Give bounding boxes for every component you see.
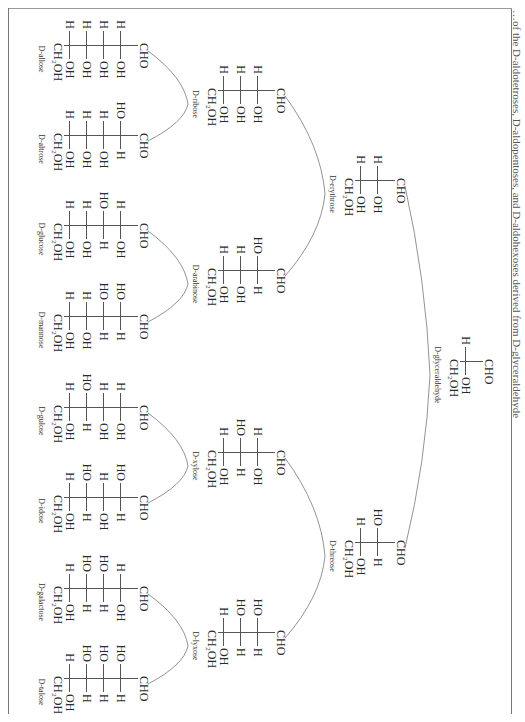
aldehyde-group: CHO: [275, 630, 287, 655]
left-substituent: H: [115, 20, 127, 29]
stereocenter-bond: [69, 31, 70, 59]
carbon-chain: [218, 90, 275, 91]
stereocenter-bond: [69, 393, 70, 421]
right-substituent: OH: [98, 423, 110, 440]
left-substituent: HO: [98, 555, 110, 572]
aldehyde-group: CHO: [483, 359, 495, 384]
sugar-name-label: D-altrose: [37, 134, 46, 164]
left-substituent: HO: [252, 599, 264, 616]
stereocenter-bond: [103, 302, 104, 330]
left-substituent: HO: [252, 237, 264, 254]
right-substituent: H: [115, 694, 127, 703]
left-substituent: HO: [235, 419, 247, 436]
stereocenter-bond: [465, 347, 466, 375]
stereocenter-bond: [360, 166, 361, 194]
left-substituent: H: [218, 245, 230, 254]
stereocenter-bond: [86, 121, 87, 149]
right-substituent: OH: [372, 196, 384, 213]
aldehyde-group: CHO: [138, 586, 150, 611]
carbon-chain: [64, 316, 138, 317]
right-substituent: H: [98, 241, 110, 250]
right-substituent: OH: [218, 286, 230, 303]
aldehyde-group: CHO: [138, 133, 150, 158]
carbon-chain: [64, 45, 138, 46]
right-substituent: OH: [98, 61, 110, 78]
stereocenter-bond: [120, 121, 121, 149]
stereocenter-bond: [86, 664, 87, 692]
stereocenter-bond: [120, 664, 121, 692]
right-substituent: OH: [64, 61, 76, 78]
tree-link: [148, 594, 188, 646]
aldehyde-group: CHO: [275, 268, 287, 293]
stereocenter-bond: [257, 438, 258, 466]
right-substituent: H: [235, 468, 247, 477]
right-substituent: OH: [81, 61, 93, 78]
right-substituent: OH: [218, 468, 230, 485]
hydroxymethyl-group: CH₂OH: [52, 133, 64, 171]
right-substituent: OH: [64, 151, 76, 168]
aldehyde-group: CHO: [275, 88, 287, 113]
stereocenter-bond: [86, 483, 87, 511]
left-substituent: H: [64, 110, 76, 119]
carbon-chain: [218, 270, 275, 271]
left-substituent: H: [235, 65, 247, 74]
sugar-name-label: D-idose: [37, 498, 46, 523]
left-substituent: H: [64, 20, 76, 29]
stereocenter-bond: [240, 438, 241, 466]
left-substituent: H: [64, 472, 76, 481]
tree-link: [148, 413, 188, 466]
carbon-chain: [218, 452, 275, 453]
left-substituent: H: [218, 427, 230, 436]
left-substituent: HO: [115, 645, 127, 662]
right-substituent: OH: [81, 241, 93, 258]
stereocenter-bond: [223, 438, 224, 466]
right-substituent: OH: [64, 694, 76, 711]
left-substituent: H: [64, 291, 76, 300]
left-substituent: HO: [115, 464, 127, 481]
right-substituent: H: [98, 694, 110, 703]
hydroxymethyl-group: CH₂OH: [343, 178, 355, 216]
sugar-name-label: D-glyceraldehyde: [433, 346, 442, 403]
tree-link: [405, 186, 430, 375]
left-substituent: H: [355, 517, 367, 526]
carbon-chain: [218, 632, 275, 633]
stereocenter-bond: [360, 528, 361, 556]
right-substituent: OH: [64, 513, 76, 530]
right-substituent: OH: [115, 423, 127, 440]
left-substituent: H: [64, 653, 76, 662]
stereocenter-bond: [120, 302, 121, 330]
aldehyde-group: CHO: [138, 43, 150, 68]
right-substituent: H: [81, 423, 93, 432]
left-substituent: HO: [372, 509, 384, 526]
carbon-chain: [460, 361, 483, 362]
left-substituent: HO: [235, 599, 247, 616]
right-substituent: OH: [355, 558, 367, 575]
left-substituent: HO: [115, 283, 127, 300]
left-substituent: HO: [81, 555, 93, 572]
left-substituent: H: [218, 65, 230, 74]
aldehyde-group: CHO: [395, 540, 407, 565]
stereocenter-bond: [103, 211, 104, 239]
stereocenter-bond: [120, 574, 121, 602]
aldehyde-group: CHO: [138, 495, 150, 520]
stereocenter-bond: [120, 393, 121, 421]
sugar-name-label: D-gulose: [37, 406, 46, 435]
left-substituent: H: [218, 607, 230, 616]
figure-page: …of the D-aldotetroses, D-aldopentoses, …: [0, 0, 525, 722]
stereocenter-bond: [69, 211, 70, 239]
sugar-name-label: D-glucose: [37, 223, 46, 256]
right-substituent: OH: [218, 648, 230, 665]
carbon-chain: [64, 678, 138, 679]
right-substituent: H: [115, 332, 127, 341]
tree-link: [285, 556, 325, 638]
stereocenter-bond: [240, 256, 241, 284]
stereocenter-bond: [377, 528, 378, 556]
hydroxymethyl-group: CH₂OH: [52, 314, 64, 352]
stereocenter-bond: [120, 211, 121, 239]
sugar-name-label: D-erythrose: [328, 175, 337, 213]
left-substituent: H: [64, 200, 76, 209]
carbon-chain: [64, 497, 138, 498]
right-substituent: H: [98, 332, 110, 341]
hydroxymethyl-group: CH₂OH: [206, 268, 218, 306]
stereocenter-bond: [103, 664, 104, 692]
